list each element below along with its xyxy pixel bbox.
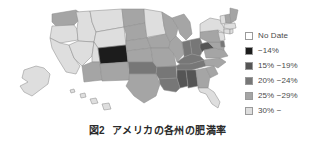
state-LA[interactable] xyxy=(159,78,180,92)
state-WA[interactable] xyxy=(52,10,80,26)
legend: No Date −14% 15% −19% 20% −24% 25% −29% … xyxy=(245,28,313,118)
legend-item-20-24[interactable]: 20% −24% xyxy=(245,73,313,88)
state-AK[interactable] xyxy=(20,66,50,96)
state-TX[interactable] xyxy=(126,74,160,103)
legend-item-30-plus[interactable]: 30% − xyxy=(245,103,313,118)
legend-item-label: 25% −29% xyxy=(258,91,298,100)
choropleth-map xyxy=(14,4,242,116)
states-layer xyxy=(20,8,238,110)
legend-item-label: 15% −19% xyxy=(258,61,298,70)
state-DE[interactable] xyxy=(220,41,225,47)
legend-item-under-14[interactable]: −14% xyxy=(245,43,313,58)
state-ME[interactable] xyxy=(230,8,238,23)
state-HI4[interactable] xyxy=(102,103,111,110)
state-FL[interactable] xyxy=(198,88,220,108)
legend-item-no-data[interactable]: No Date xyxy=(245,28,313,43)
legend-item-label: −14% xyxy=(258,46,279,55)
legend-item-label: 30% − xyxy=(258,106,281,115)
legend-swatch-icon xyxy=(245,32,253,40)
state-AZ[interactable] xyxy=(82,62,102,82)
legend-swatch-icon xyxy=(245,62,253,70)
state-NM[interactable] xyxy=(100,62,129,81)
figure-caption: 図2アメリカの各州の肥満率 xyxy=(0,122,315,137)
legend-item-25-29[interactable]: 25% −29% xyxy=(245,88,313,103)
state-AR[interactable] xyxy=(156,66,177,79)
state-RI[interactable] xyxy=(230,29,233,34)
map-svg xyxy=(14,4,242,116)
legend-swatch-icon xyxy=(245,107,253,115)
state-HI2[interactable] xyxy=(80,93,86,98)
legend-swatch-icon xyxy=(245,77,253,85)
state-OK[interactable] xyxy=(128,62,157,74)
figure-container: No Date −14% 15% −19% 20% −24% 25% −29% … xyxy=(0,0,315,142)
legend-swatch-icon xyxy=(245,92,253,100)
legend-item-label: No Date xyxy=(258,31,288,40)
state-CO[interactable] xyxy=(98,45,128,64)
state-HI3[interactable] xyxy=(90,98,98,104)
state-NC[interactable] xyxy=(204,58,226,68)
caption-number: 図2 xyxy=(89,125,105,136)
state-CT[interactable] xyxy=(224,29,230,34)
legend-swatch-icon xyxy=(245,47,253,55)
state-HI[interactable] xyxy=(70,89,75,93)
legend-item-label: 20% −24% xyxy=(258,76,298,85)
legend-item-15-19[interactable]: 15% −19% xyxy=(245,58,313,73)
caption-text: アメリカの各州の肥満率 xyxy=(112,125,226,136)
state-MA[interactable] xyxy=(224,23,236,29)
